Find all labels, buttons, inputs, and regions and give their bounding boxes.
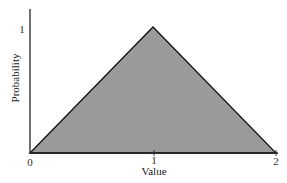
x-tick-label-2: 2 — [273, 155, 279, 167]
probability-area — [30, 27, 276, 153]
y-tick-label-1: 1 — [19, 23, 25, 35]
triangular-distribution-chart: 0 1 2 1 Value Probability — [0, 0, 287, 183]
x-tick-label-0: 0 — [27, 156, 33, 168]
y-axis-title: Probability — [9, 53, 21, 102]
x-axis-title: Value — [141, 165, 166, 177]
